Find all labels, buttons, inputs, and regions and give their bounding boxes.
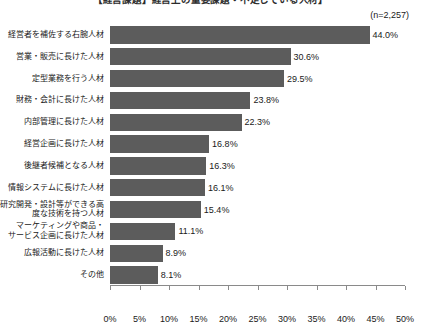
x-tick-label: 45% xyxy=(366,314,384,324)
bar-value-label: 15.4% xyxy=(201,205,230,215)
bar-row: 広報活動に長けた人材8.9% xyxy=(110,245,405,262)
bar xyxy=(110,157,206,174)
x-tick-mark xyxy=(405,286,406,290)
bar xyxy=(110,26,370,43)
category-label: 研究開発・設計等ができる高 度な技術を持つ人材 xyxy=(0,200,110,220)
bar-value-label: 11.1% xyxy=(175,226,203,236)
bar xyxy=(110,201,201,218)
bar-row: その他8.1% xyxy=(110,266,405,283)
bar-value-label: 16.3% xyxy=(206,161,235,171)
x-tick-label: 10% xyxy=(160,314,178,324)
x-tick-label: 0% xyxy=(103,314,116,324)
chart-title: 【経営課題】経営上の重要課題・不足している人材】 xyxy=(0,0,421,6)
bar xyxy=(110,179,205,196)
bar-row: 定型業務を行う人材29.5% xyxy=(110,70,405,87)
x-tick-label: 5% xyxy=(133,314,146,324)
x-tick-label: 15% xyxy=(189,314,207,324)
bar-row: 内部管理に長けた人材22.3% xyxy=(110,114,405,131)
x-tick-label: 30% xyxy=(278,314,296,324)
bar xyxy=(110,266,158,283)
bar xyxy=(110,92,250,109)
bar-value-label: 44.0% xyxy=(370,30,399,40)
x-tick-label: 20% xyxy=(219,314,237,324)
category-label: 経営者を補佐する右腕人材 xyxy=(0,30,110,40)
bar xyxy=(110,223,175,240)
bar-row: 経営企画に長けた人材16.8% xyxy=(110,135,405,152)
bar-value-label: 8.9% xyxy=(163,248,187,258)
x-tick-mark xyxy=(199,286,200,290)
bar-value-label: 22.3% xyxy=(242,117,271,127)
category-label: 広報活動に長けた人材 xyxy=(0,248,110,258)
bar-row: 情報システムに長けた人材16.1% xyxy=(110,179,405,196)
bar xyxy=(110,70,284,87)
x-tick-label: 35% xyxy=(307,314,325,324)
x-tick-label: 50% xyxy=(396,314,414,324)
x-tick-mark xyxy=(376,286,377,290)
x-tick-label: 25% xyxy=(248,314,266,324)
category-label: 情報システムに長けた人材 xyxy=(0,183,110,193)
bar-value-label: 23.8% xyxy=(250,95,279,105)
bar-value-label: 16.8% xyxy=(209,139,238,149)
category-label: 経営企画に長けた人材 xyxy=(0,139,110,149)
x-tick-mark xyxy=(287,286,288,290)
x-tick-mark xyxy=(228,286,229,290)
x-tick-mark xyxy=(169,286,170,290)
x-tick-label: 40% xyxy=(337,314,355,324)
plot-area: 0%5%10%15%20%25%30%35%40%45%50% 経営者を補佐する… xyxy=(110,24,405,286)
bar xyxy=(110,245,163,262)
category-label: 営業・販売に長けた人材 xyxy=(0,52,110,62)
category-label: 内部管理に長けた人材 xyxy=(0,117,110,127)
x-tick-mark xyxy=(110,286,111,290)
bar xyxy=(110,135,209,152)
bar-row: 財務・会計に長けた人材23.8% xyxy=(110,92,405,109)
x-tick-mark xyxy=(258,286,259,290)
bar-value-label: 8.1% xyxy=(158,270,182,280)
bar xyxy=(110,114,242,131)
bar-value-label: 30.6% xyxy=(291,52,320,62)
category-label: マーケティングや商品・ サービス企画に長けた人材 xyxy=(0,222,110,242)
x-tick-mark xyxy=(140,286,141,290)
x-tick-mark xyxy=(346,286,347,290)
category-label: 後継者候補となる人材 xyxy=(0,161,110,171)
bar-row: 経営者を補佐する右腕人材44.0% xyxy=(110,26,405,43)
category-label: その他 xyxy=(0,270,110,280)
bar-value-label: 29.5% xyxy=(284,74,313,84)
x-tick-mark xyxy=(317,286,318,290)
bar-row: 営業・販売に長けた人材30.6% xyxy=(110,48,405,65)
sample-size-annotation: (n=2,257) xyxy=(370,10,409,20)
bar-row: 後継者候補となる人材16.3% xyxy=(110,157,405,174)
bar-value-label: 16.1% xyxy=(205,183,234,193)
bar xyxy=(110,48,291,65)
bar-row: マーケティングや商品・ サービス企画に長けた人材11.1% xyxy=(110,223,405,240)
category-label: 財務・会計に長けた人材 xyxy=(0,96,110,106)
category-label: 定型業務を行う人材 xyxy=(0,74,110,84)
bar-row: 研究開発・設計等ができる高 度な技術を持つ人材15.4% xyxy=(110,201,405,218)
